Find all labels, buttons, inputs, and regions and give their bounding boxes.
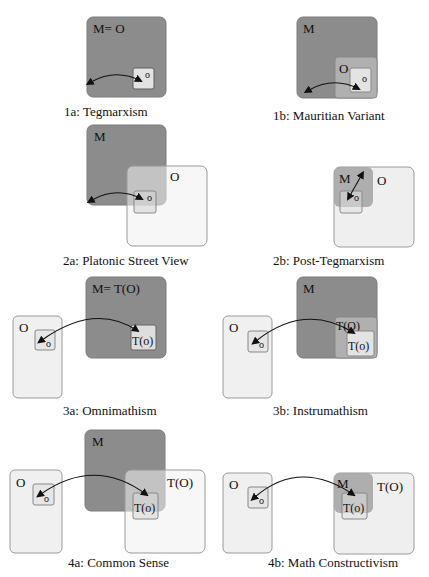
panel-1a: M= O o 1a: Tegmarxism bbox=[64, 17, 166, 119]
math-box-label: M bbox=[303, 21, 315, 36]
observable-box-label: O bbox=[339, 61, 348, 76]
model-box-label: T(O) bbox=[167, 475, 193, 490]
small-box-label: o bbox=[145, 69, 150, 80]
small-box-label: o bbox=[147, 192, 152, 203]
observable-box-label: O bbox=[19, 320, 28, 335]
small-box-label: o bbox=[46, 338, 51, 349]
panel-caption: 3a: Omnimathism bbox=[63, 403, 157, 418]
diagram-canvas: M= O o 1a: Tegmarxism M O o 1b: Mauritia… bbox=[0, 0, 429, 577]
model-small-box-label: T(o) bbox=[343, 501, 364, 515]
panel-caption: 3b: Instrumathism bbox=[273, 403, 368, 418]
observable-box-label: O bbox=[170, 169, 179, 184]
panel-3b: O o M T(O) T(o) 3b: Instrumathism bbox=[223, 277, 377, 418]
panel-caption: 1b: Mauritian Variant bbox=[273, 108, 385, 123]
model-small-box-label: T(o) bbox=[134, 501, 155, 515]
panel-4a: O o M T(O) T(o) 4a: Common Sense bbox=[10, 430, 205, 570]
small-box-label: o bbox=[259, 339, 264, 350]
panel-caption: 2b: Post-Tegmarxism bbox=[273, 253, 384, 268]
observable-box-label: O bbox=[377, 173, 386, 188]
observable-small-box bbox=[248, 487, 268, 508]
small-box-label: o bbox=[259, 495, 264, 506]
math-box-label: M bbox=[94, 129, 106, 144]
small-box-label: o bbox=[354, 192, 359, 203]
model-box-label: T(O) bbox=[377, 479, 403, 494]
panel-caption: 4b: Math Constructivism bbox=[268, 555, 398, 570]
panel-2a: M O o 2a: Platonic Street View bbox=[63, 125, 207, 268]
observable-box-label: O bbox=[229, 477, 238, 492]
panel-caption: 2a: Platonic Street View bbox=[63, 253, 189, 268]
observable-box-label: O bbox=[16, 475, 25, 490]
small-box-label: o bbox=[44, 493, 49, 504]
panel-2b: O M o 2b: Post-Tegmarxism bbox=[273, 167, 414, 268]
panel-caption: 1a: Tegmarxism bbox=[64, 104, 148, 119]
small-box-label: o bbox=[362, 73, 367, 84]
panel-caption: 4a: Common Sense bbox=[68, 555, 169, 570]
model-small-box-label: T(o) bbox=[348, 339, 369, 353]
math-box-label: M bbox=[92, 434, 104, 449]
panel-4b: O o T(O) M T(o) 4b: Math Constructivism bbox=[223, 473, 414, 570]
panel-3a: O o M= T(O) T(o) 3a: Omnimathism bbox=[13, 277, 166, 418]
math-box-label: M bbox=[303, 281, 315, 296]
observable-box-label: O bbox=[229, 320, 238, 335]
math-box-label: M= T(O) bbox=[92, 281, 140, 296]
model-small-box-label: T(o) bbox=[132, 334, 153, 348]
observable-small-box bbox=[350, 68, 371, 92]
math-box-label: M= O bbox=[93, 21, 125, 36]
panel-1b: M O o 1b: Mauritian Variant bbox=[273, 17, 385, 123]
observable-small-box bbox=[134, 191, 156, 213]
math-box-label: M bbox=[339, 171, 351, 186]
